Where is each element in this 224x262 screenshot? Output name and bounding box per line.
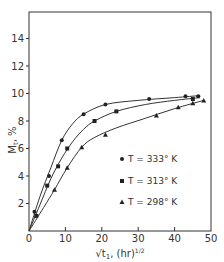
plot-frame [29, 12, 211, 231]
legend-label: T = 333° K [127, 154, 178, 164]
legend-label: T = 313° K [127, 176, 178, 186]
y-label-main: M [7, 145, 18, 154]
square-marker-icon [93, 119, 97, 123]
square-marker-icon [65, 147, 69, 151]
axis-ticks: 010203040502468101214 [11, 33, 217, 244]
legend-item: T = 313° K [120, 176, 178, 186]
circle-marker-icon [60, 138, 64, 142]
series-markers [32, 94, 206, 218]
circle-marker-icon [103, 103, 107, 107]
x-tick-label: 30 [132, 233, 145, 244]
x-label-exp: 1/2 [135, 247, 145, 254]
square-marker-icon [56, 164, 60, 168]
series-curve [29, 100, 204, 231]
square-marker-icon [120, 179, 124, 183]
triangle-marker-icon [52, 187, 57, 192]
x-label-main: √t [95, 248, 105, 259]
circle-marker-icon [32, 210, 36, 214]
legend-item: T = 298° K [120, 197, 179, 207]
legend: T = 333° KT = 313° KT = 298° K [120, 154, 179, 207]
x-tick-label: 40 [168, 233, 181, 244]
chart: 010203040502468101214 T = 333° KT = 313°… [0, 0, 224, 262]
x-label-units: , (hr) [110, 248, 135, 259]
y-tick-label: 8 [18, 116, 24, 127]
circle-marker-icon [184, 94, 188, 98]
series-curve [29, 98, 200, 231]
x-tick-label: 20 [95, 233, 108, 244]
legend-item: T = 333° K [120, 154, 178, 164]
x-tick-label: 0 [26, 233, 32, 244]
y-tick-label: 12 [11, 61, 24, 72]
square-marker-icon [191, 97, 195, 101]
triangle-marker-icon [201, 98, 206, 103]
legend-label: T = 298° K [127, 197, 178, 207]
x-axis-title: √t1, (hr)1/2 [95, 247, 144, 261]
y-tick-label: 10 [11, 88, 24, 99]
x-tick-label: 50 [205, 233, 218, 244]
x-tick-label: 10 [59, 233, 72, 244]
circle-marker-icon [196, 94, 200, 98]
triangle-marker-icon [120, 200, 125, 205]
circle-marker-icon [147, 97, 151, 101]
series-curves [29, 96, 204, 231]
square-marker-icon [34, 214, 38, 218]
plot-border [29, 12, 211, 231]
y-tick-label: 4 [18, 171, 24, 182]
y-tick-label: 2 [18, 198, 24, 209]
y-tick-label: 14 [11, 33, 24, 44]
circle-marker-icon [120, 157, 124, 161]
y-label-units: , % [7, 126, 18, 142]
circle-marker-icon [82, 112, 86, 116]
square-marker-icon [114, 109, 118, 113]
circle-marker-icon [47, 174, 51, 178]
square-marker-icon [45, 184, 49, 188]
svg-text:√t1, (hr)1/2: √t1, (hr)1/2 [95, 247, 144, 261]
